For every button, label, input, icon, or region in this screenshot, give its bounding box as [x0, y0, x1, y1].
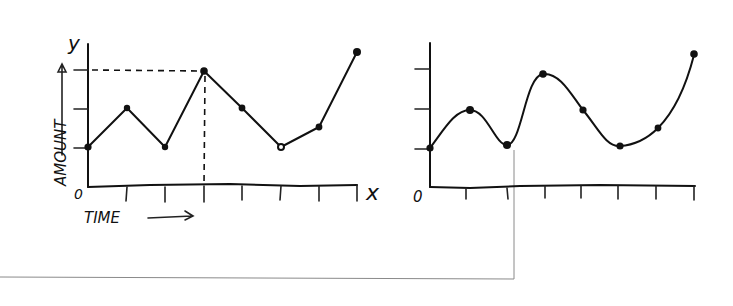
right-x-ticks	[466, 186, 694, 200]
sketch-canvas: y x 0 AMOUNT TIME 0	[0, 0, 733, 306]
right-chart: 0	[413, 43, 698, 206]
left-y-ticks	[74, 70, 88, 148]
left-x-axis	[88, 184, 357, 187]
right-y-ticks	[415, 69, 430, 149]
time-arrow-icon	[148, 211, 193, 220]
left-x-label: TIME	[84, 209, 121, 227]
right-origin-label: 0	[413, 188, 423, 206]
right-data-curve	[430, 55, 694, 148]
left-data-line	[88, 52, 357, 147]
frame-border	[0, 150, 514, 279]
left-y-letter: y	[67, 31, 81, 55]
left-x-ticks	[126, 185, 357, 202]
left-x-letter: x	[365, 180, 380, 205]
left-dashed-vertical	[204, 76, 205, 186]
right-data-points	[426, 50, 697, 151]
left-origin-label: 0	[74, 186, 83, 202]
left-chart: y x 0 AMOUNT TIME	[52, 31, 380, 227]
left-dashed-horizontal	[92, 70, 202, 71]
left-data-points	[84, 48, 361, 151]
left-y-label: AMOUNT	[52, 118, 70, 187]
